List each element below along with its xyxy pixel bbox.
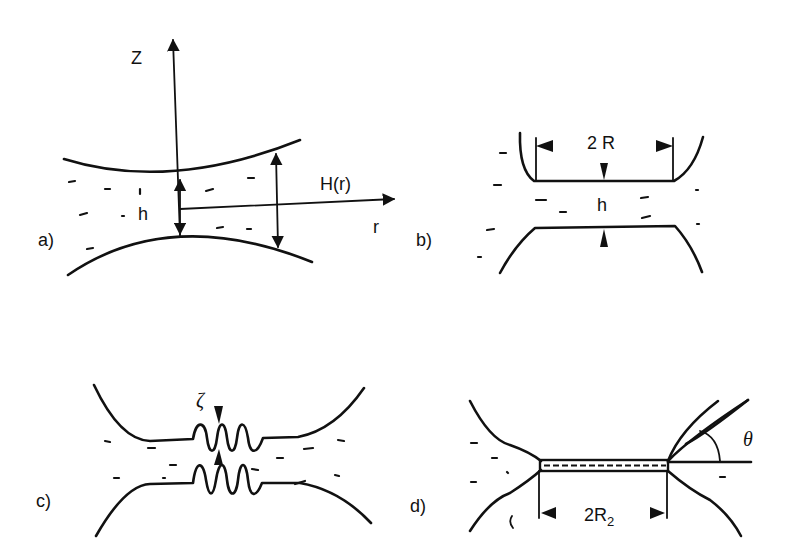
h-label: h (138, 204, 148, 224)
panel-c: ζ c) (36, 385, 371, 536)
figure-canvas: Z h H(r) r a) 2 R h b) (0, 0, 792, 554)
panel-b: 2 R h b) (416, 133, 703, 273)
panel-b-label: b) (416, 230, 432, 250)
r-axis-label: r (373, 217, 379, 237)
h-top-arrowhead (600, 163, 608, 180)
radius-right-arrowhead (650, 507, 665, 519)
panel-c-label: c) (36, 491, 51, 511)
lower-left-meniscus (470, 470, 541, 531)
upper-wavy-interface (94, 385, 364, 451)
theta-label: θ (743, 428, 753, 450)
liquid-marks (105, 440, 344, 484)
lower-interface (68, 236, 312, 275)
panel-d-label: d) (410, 496, 426, 516)
z-axis-label: Z (131, 48, 142, 68)
radius-right-arrowhead (656, 140, 673, 152)
film-diagram: Z h H(r) r a) 2 R h b) (0, 0, 792, 554)
panel-a: Z h H(r) r a) (38, 40, 394, 275)
radius-left-arrowhead (541, 507, 556, 519)
r-axis-arrow (180, 199, 394, 209)
zeta-label: ζ (196, 389, 206, 412)
stray-mark (510, 516, 513, 528)
contact-angle-arc (700, 431, 720, 461)
H-profile-label: H(r) (320, 174, 351, 194)
zeta-bottom-arrowhead (214, 449, 223, 465)
upper-left-meniscus (470, 401, 541, 461)
panel-d: 2R2 θ d) (410, 400, 753, 536)
H-arrow (276, 154, 278, 247)
radius-label: 2R2 (584, 505, 614, 529)
lower-right-meniscus (668, 471, 741, 536)
z-axis-arrow (173, 40, 180, 236)
lower-meniscus (500, 226, 702, 273)
radius-left-arrowhead (536, 140, 553, 152)
upper-interface (64, 140, 300, 172)
panel-a-label: a) (38, 230, 54, 250)
h-label: h (597, 195, 607, 215)
lower-wavy-interface (96, 465, 371, 536)
zeta-top-arrowhead (214, 406, 223, 424)
radius-label: 2 R (587, 133, 615, 153)
liquid-marks (478, 153, 699, 257)
h-bottom-arrowhead (600, 229, 608, 247)
